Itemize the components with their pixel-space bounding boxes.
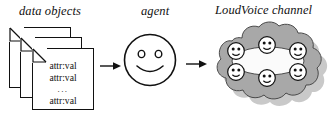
- channel-node: [228, 64, 245, 81]
- caption-data-objects: data objects: [19, 4, 81, 19]
- data-object-card: attr:val attr:val ... attr:val: [32, 48, 94, 110]
- channel-node: [259, 70, 276, 87]
- page-fold-icon: [32, 48, 47, 63]
- card-attribute-list: attr:val attr:val ... attr:val: [33, 60, 93, 107]
- card-attribute-line: attr:val: [33, 95, 93, 107]
- diagram-canvas: data objects agent LoudVoice channel att…: [0, 0, 334, 117]
- arrow-data-to-agent: [100, 57, 122, 75]
- caption-agent: agent: [141, 4, 169, 19]
- agent-smiley-icon: [122, 32, 178, 92]
- channel-node: [228, 43, 245, 60]
- card-ellipsis: ...: [33, 83, 93, 95]
- card-attribute-line: attr:val: [33, 72, 93, 84]
- caption-loudvoice-channel: LoudVoice channel: [215, 3, 312, 18]
- channel-node: [290, 43, 307, 60]
- data-object-stack: attr:val attr:val ... attr:val attr:val …: [9, 27, 109, 109]
- channel-node: [290, 64, 307, 81]
- loudvoice-channel-cloud: [203, 20, 334, 117]
- channel-node: [259, 37, 276, 54]
